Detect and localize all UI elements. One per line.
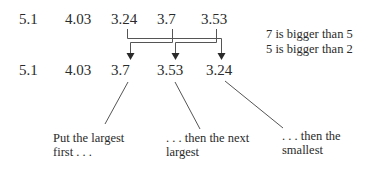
arrowhead-icon bbox=[172, 53, 180, 60]
arrow-3-53 bbox=[176, 29, 217, 53]
arrowhead-icon bbox=[218, 53, 226, 60]
leader-line-smallest bbox=[225, 81, 283, 128]
caption-line: . . . then the bbox=[282, 129, 341, 143]
arrowhead-icon bbox=[127, 53, 135, 60]
arrow-3-7 bbox=[131, 29, 173, 53]
leader-line-next-largest bbox=[175, 82, 200, 129]
caption-line: largest bbox=[166, 145, 249, 159]
arrow-3-24 bbox=[128, 29, 222, 53]
caption-line: smallest bbox=[282, 143, 341, 157]
caption-line: first . . . bbox=[53, 145, 124, 159]
leader-line-largest bbox=[105, 82, 128, 124]
caption-next-largest: . . . then the next largest bbox=[166, 131, 249, 159]
caption-line: Put the largest bbox=[53, 131, 124, 145]
caption-largest-first: Put the largest first . . . bbox=[53, 131, 124, 159]
caption-smallest: . . . then the smallest bbox=[282, 129, 341, 157]
caption-line: . . . then the next bbox=[166, 131, 249, 145]
